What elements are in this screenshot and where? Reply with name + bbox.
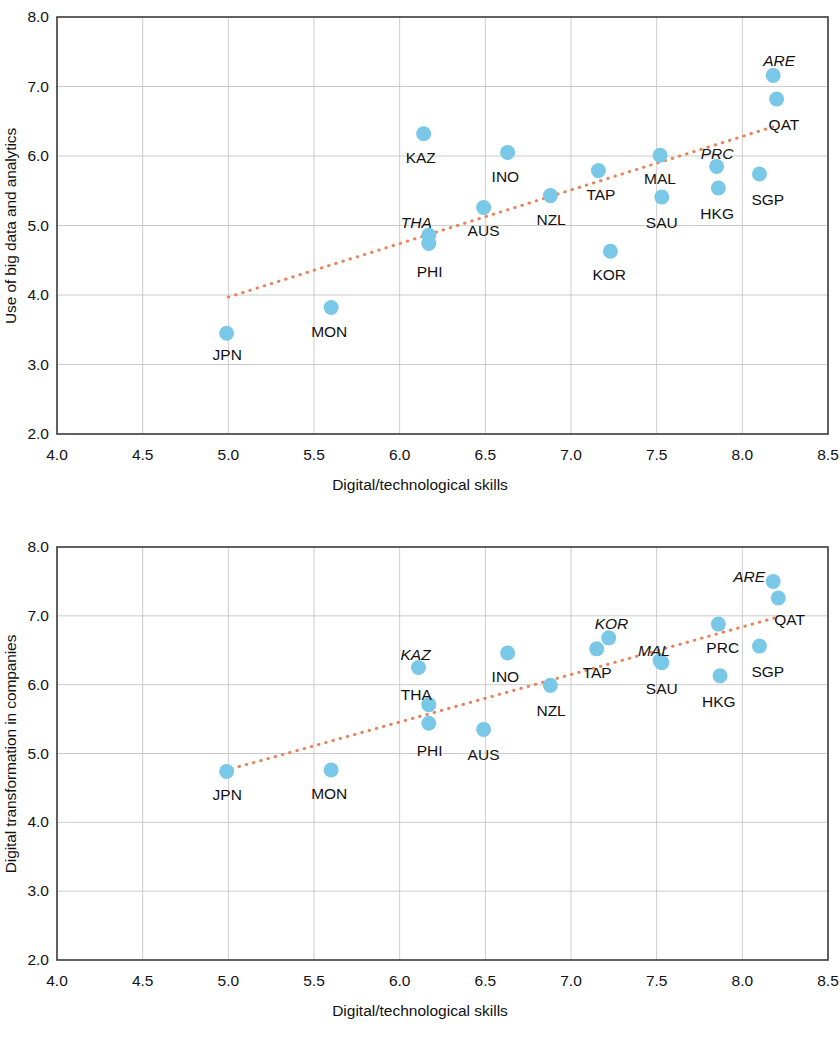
x-axis-tick-label: 5.5	[289, 972, 339, 990]
x-axis-tick-label: 4.0	[32, 446, 82, 464]
point-label-nzl: NZL	[536, 212, 565, 228]
point-label-kor: KOR	[592, 267, 626, 283]
point-label-are: ARE	[763, 53, 795, 69]
y-axis-tick-label: 2.0	[5, 951, 49, 969]
point-label-kaz: KAZ	[401, 647, 431, 663]
point-label-tap: TAP	[583, 665, 612, 681]
point-label-tha: THA	[401, 687, 432, 703]
data-point	[416, 126, 431, 141]
data-point	[421, 716, 436, 731]
data-point	[219, 764, 234, 779]
data-point	[711, 617, 726, 632]
data-point	[752, 167, 767, 182]
y-axis-tick-label: 8.0	[5, 8, 49, 26]
x-axis-tick-label: 8.5	[803, 972, 840, 990]
point-label-prc: PRC	[706, 640, 739, 656]
point-label-ino: INO	[492, 669, 520, 685]
x-axis-tick-label: 7.5	[632, 446, 682, 464]
data-point	[543, 188, 558, 203]
x-axis-tick-label: 5.5	[289, 446, 339, 464]
data-point	[713, 668, 728, 683]
point-label-hkg: HKG	[700, 206, 734, 222]
y-axis-title: Use of big data and analytics	[2, 127, 20, 323]
data-point	[476, 722, 491, 737]
data-point	[766, 574, 781, 589]
data-point	[219, 326, 234, 341]
point-label-sgp: SGP	[751, 192, 784, 208]
y-axis-tick-label: 8.0	[5, 538, 49, 556]
data-point	[752, 639, 767, 654]
x-axis-title: Digital/technological skills	[0, 1002, 840, 1020]
point-label-mon: MON	[311, 786, 347, 802]
data-point	[601, 630, 616, 645]
point-label-aus: AUS	[468, 747, 500, 763]
point-label-qat: QAT	[769, 117, 800, 133]
data-point	[324, 300, 339, 315]
data-point	[771, 590, 786, 605]
data-point	[591, 163, 606, 178]
point-label-qat: QAT	[774, 612, 805, 628]
chart-big-data-analytics: JPNMONKAZTHAPHIAUSINONZLTAPKORMALSAUPRCH…	[0, 0, 840, 500]
x-axis-tick-label: 4.5	[118, 972, 168, 990]
data-point	[421, 236, 436, 251]
y-axis-tick-label: 2.0	[5, 425, 49, 443]
data-point	[603, 244, 618, 259]
x-axis-tick-label: 7.0	[546, 972, 596, 990]
plot-area	[0, 500, 840, 1045]
y-axis-title: Digital transformation in companies	[2, 634, 20, 873]
data-point	[769, 92, 784, 107]
data-point	[324, 763, 339, 778]
y-axis-tick-label: 7.0	[5, 78, 49, 96]
x-axis-tick-label: 6.0	[375, 972, 425, 990]
point-label-tap: TAP	[586, 187, 615, 203]
point-label-are: ARE	[733, 569, 765, 585]
data-point	[711, 180, 726, 195]
point-label-aus: AUS	[468, 223, 500, 239]
point-label-prc: PRC	[701, 146, 734, 162]
plot-area	[0, 0, 840, 500]
data-point	[543, 678, 558, 693]
point-label-jpn: JPN	[213, 787, 242, 803]
data-point	[500, 145, 515, 160]
point-label-mon: MON	[311, 324, 347, 340]
point-label-phi: PHI	[417, 743, 443, 759]
data-point	[589, 641, 604, 656]
point-label-phi: PHI	[417, 264, 443, 280]
point-label-kor: KOR	[595, 616, 629, 632]
point-label-kaz: KAZ	[406, 150, 436, 166]
point-label-sau: SAU	[646, 215, 678, 231]
data-point	[500, 646, 515, 661]
point-label-mal: MAL	[638, 643, 670, 659]
x-axis-tick-label: 7.0	[546, 446, 596, 464]
x-axis-tick-label: 8.0	[717, 446, 767, 464]
data-point	[766, 68, 781, 83]
x-axis-tick-label: 6.5	[460, 972, 510, 990]
x-axis-tick-label: 8.5	[803, 446, 840, 464]
x-axis-tick-label: 5.0	[203, 446, 253, 464]
y-axis-tick-label: 3.0	[5, 882, 49, 900]
data-point	[654, 190, 669, 205]
point-label-mal: MAL	[644, 171, 676, 187]
data-point	[653, 148, 668, 163]
x-axis-tick-label: 5.0	[203, 972, 253, 990]
point-label-sau: SAU	[646, 681, 678, 697]
point-label-hkg: HKG	[702, 694, 736, 710]
chart-digital-transformation: JPNMONKAZTHAPHIAUSINONZLTAPKORMALSAUPRCH…	[0, 500, 840, 1045]
point-label-jpn: JPN	[213, 347, 242, 363]
y-axis-tick-label: 7.0	[5, 607, 49, 625]
y-axis-tick-label: 3.0	[5, 356, 49, 374]
x-axis-tick-label: 6.0	[375, 446, 425, 464]
x-axis-tick-label: 4.0	[32, 972, 82, 990]
x-axis-tick-label: 4.5	[118, 446, 168, 464]
x-axis-tick-label: 8.0	[717, 972, 767, 990]
data-point	[476, 200, 491, 215]
point-label-nzl: NZL	[536, 703, 565, 719]
x-axis-tick-label: 7.5	[632, 972, 682, 990]
point-label-sgp: SGP	[751, 664, 784, 680]
x-axis-tick-label: 6.5	[460, 446, 510, 464]
point-label-tha: THA	[401, 215, 432, 231]
x-axis-title: Digital/technological skills	[0, 476, 840, 494]
point-label-ino: INO	[492, 169, 520, 185]
